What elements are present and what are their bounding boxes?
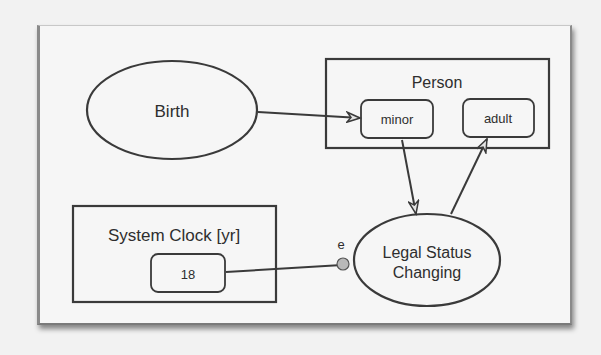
process-legal-status-label-1: Legal Status bbox=[383, 244, 472, 261]
state-adult[interactable]: adult bbox=[463, 99, 534, 137]
process-birth-label: Birth bbox=[155, 102, 190, 121]
object-person[interactable]: Person bbox=[326, 59, 549, 148]
event-link-label: e bbox=[337, 237, 344, 252]
process-legal-status-label-2: Changing bbox=[393, 264, 462, 281]
link-legal-status-to-adult[interactable] bbox=[451, 139, 487, 214]
process-birth[interactable]: Birth bbox=[87, 61, 257, 159]
link-birth-to-minor[interactable] bbox=[258, 112, 360, 118]
link-event-clock-to-legal-status[interactable] bbox=[226, 265, 342, 272]
clock-value[interactable]: 18 bbox=[151, 254, 225, 292]
link-minor-to-legal-status[interactable] bbox=[402, 140, 416, 214]
state-minor-label: minor bbox=[381, 112, 414, 127]
process-legal-status-changing[interactable]: Legal Status Changing bbox=[354, 214, 500, 306]
event-link-dot-icon bbox=[337, 258, 349, 270]
object-system-clock-label: System Clock [yr] bbox=[108, 226, 240, 245]
object-person-label: Person bbox=[412, 74, 463, 91]
opm-diagram: Birth Person minor adult System Clock [y… bbox=[0, 0, 601, 355]
state-adult-label: adult bbox=[484, 111, 513, 126]
state-minor[interactable]: minor bbox=[361, 100, 433, 138]
clock-value-label: 18 bbox=[181, 267, 195, 282]
